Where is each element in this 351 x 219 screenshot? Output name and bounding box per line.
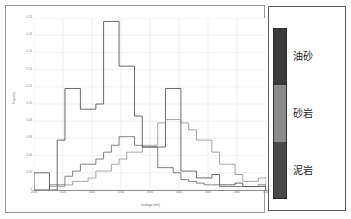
y-tick-label: 0.16 <box>27 51 32 54</box>
y-axis-tick-labels: 0.200.180.160.140.120.100.080.060.040.02… <box>12 18 32 190</box>
x-tick-label: 4600 <box>205 192 211 195</box>
legend-item-label: 泥岩 <box>293 166 345 176</box>
y-tick-label: 0.10 <box>27 103 32 106</box>
y-tick-label: 0.14 <box>27 68 32 71</box>
figure-root: Frequency 0.200.180.160.140.120.100.080.… <box>0 0 351 219</box>
y-tick-label: 0.20 <box>27 17 32 20</box>
x-tick-label: 3400 <box>89 192 95 195</box>
x-tick-label: 4900 <box>234 192 240 195</box>
legend-item-label: 油砂 <box>293 52 345 62</box>
x-tick-label: 4000 <box>147 192 153 195</box>
y-tick-label: 0.12 <box>27 86 32 89</box>
x-tick-label: 4300 <box>176 192 182 195</box>
plot-canvas <box>34 18 266 190</box>
x-axis-title: Leakage (m/s) <box>34 204 267 207</box>
y-tick-label: 0.04 <box>27 154 32 157</box>
legend-swatch <box>274 85 286 141</box>
histogram-svg <box>34 18 266 190</box>
x-axis-tick-labels: 280031003400370040004300460049005200 <box>34 192 267 200</box>
chart-figure-frame: Frequency 0.200.180.160.140.120.100.080.… <box>5 5 265 213</box>
legend-item-label: 砂岩 <box>293 109 345 119</box>
legend-label-list: 油砂砂岩泥岩 <box>293 28 345 199</box>
x-tick-label: 3100 <box>60 192 66 195</box>
legend-swatch <box>274 29 286 85</box>
plot-area <box>34 18 266 190</box>
x-tick-label: 2800 <box>31 192 37 195</box>
legend-swatch-strip <box>273 28 287 199</box>
y-tick-label: 0.18 <box>27 34 32 37</box>
y-tick-label: 0.06 <box>27 137 32 140</box>
y-tick-label: 0.02 <box>27 172 32 175</box>
y-tick-label: 0.08 <box>27 120 32 123</box>
legend-swatch <box>274 142 286 198</box>
x-tick-label: 3700 <box>118 192 124 195</box>
legend-panel: 油砂砂岩泥岩 <box>268 6 346 211</box>
